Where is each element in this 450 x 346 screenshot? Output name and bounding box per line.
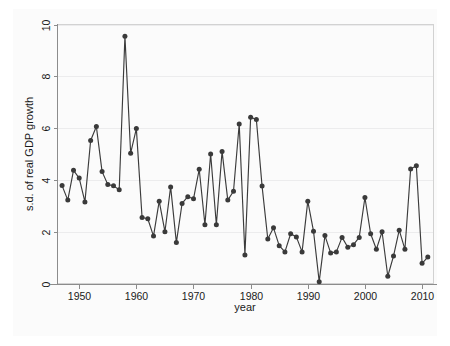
data-point-1964 [157, 199, 162, 204]
data-point-1984 [271, 225, 276, 230]
data-point-1985 [277, 243, 282, 248]
data-point-1963 [151, 234, 156, 239]
data-point-1998 [351, 242, 356, 247]
y-tick-label-6: 6 [40, 125, 52, 131]
data-point-1989 [300, 249, 305, 254]
data-point-1959 [128, 151, 133, 156]
data-point-1968 [180, 201, 185, 206]
x-axis: 1950196019701980199020002010 year [50, 285, 437, 314]
x-tick-label-1980: 1980 [240, 290, 264, 302]
data-point-1969 [185, 194, 190, 199]
data-point-1986 [282, 249, 287, 254]
data-point-1996 [340, 235, 345, 240]
data-point-1951 [82, 199, 87, 204]
data-point-2011 [425, 255, 430, 260]
data-point-1994 [328, 250, 333, 255]
x-tick-labels: 1950196019701980199020002010 [68, 290, 435, 302]
x-tick-label-1960: 1960 [125, 290, 149, 302]
y-tick-label-10: 10 [40, 20, 52, 32]
data-point-1981 [254, 117, 259, 122]
data-point-1966 [168, 184, 173, 189]
data-point-1950 [77, 176, 82, 181]
x-tick-label-2000: 2000 [354, 290, 378, 302]
data-point-1967 [174, 240, 179, 245]
data-point-1953 [94, 124, 99, 129]
data-point-1947 [60, 183, 65, 188]
y-axis-title: s.d. of real GDP growth [23, 97, 35, 211]
data-point-2002 [374, 247, 379, 252]
data-series-group [60, 34, 431, 285]
data-point-1955 [105, 182, 110, 187]
data-point-1997 [345, 245, 350, 250]
data-point-1992 [317, 279, 322, 284]
x-tick-marks [80, 285, 423, 289]
x-tick-label-1950: 1950 [68, 290, 92, 302]
data-point-1978 [237, 121, 242, 126]
data-point-1990 [305, 199, 310, 204]
x-axis-title: year [234, 301, 256, 313]
data-point-1976 [225, 198, 230, 203]
x-tick-label-1970: 1970 [182, 290, 206, 302]
data-point-1961 [140, 215, 145, 220]
data-point-1995 [334, 249, 339, 254]
chart-figure: 0246810 s.d. of real GDP growth 19501960… [0, 0, 450, 346]
data-point-2003 [380, 229, 385, 234]
data-point-1958 [122, 34, 127, 39]
data-point-1973 [208, 152, 213, 157]
data-point-1965 [162, 229, 167, 234]
data-point-1956 [111, 183, 116, 188]
data-point-1987 [288, 231, 293, 236]
data-point-1975 [220, 149, 225, 154]
data-point-1982 [260, 184, 265, 189]
data-point-1948 [65, 198, 70, 203]
data-point-1979 [242, 253, 247, 258]
line-chart-plot: 0246810 s.d. of real GDP growth 19501960… [0, 0, 450, 346]
data-point-1983 [265, 236, 270, 241]
data-point-1952 [88, 138, 93, 143]
data-point-2007 [402, 247, 407, 252]
y-tick-label-4: 4 [40, 177, 52, 183]
data-point-1977 [231, 189, 236, 194]
data-point-2008 [408, 167, 413, 172]
data-point-2006 [397, 228, 402, 233]
x-tick-label-2010: 2010 [411, 290, 435, 302]
data-point-1949 [71, 168, 76, 173]
data-point-1993 [322, 233, 327, 238]
series-line-sd-real-gdp-growth [62, 36, 428, 282]
data-point-1980 [248, 115, 253, 120]
data-point-1999 [357, 235, 362, 240]
data-point-2010 [420, 261, 425, 266]
data-point-1970 [191, 196, 196, 201]
data-point-1954 [100, 169, 105, 174]
data-point-1988 [294, 234, 299, 239]
data-point-1972 [202, 222, 207, 227]
y-axis: 0246810 s.d. of real GDP growth [23, 20, 58, 288]
data-point-2005 [391, 254, 396, 259]
data-point-2000 [362, 195, 367, 200]
data-point-1960 [134, 126, 139, 131]
y-tick-labels: 0246810 [40, 20, 52, 288]
y-tick-marks [54, 26, 58, 285]
data-point-1971 [197, 167, 202, 172]
data-point-2009 [414, 163, 419, 168]
data-point-2004 [385, 274, 390, 279]
y-tick-label-2: 2 [40, 229, 52, 235]
data-point-1957 [117, 187, 122, 192]
data-point-2001 [368, 231, 373, 236]
data-point-1974 [214, 222, 219, 227]
y-tick-label-8: 8 [40, 73, 52, 79]
x-tick-label-1990: 1990 [297, 290, 321, 302]
data-point-1991 [311, 229, 316, 234]
data-point-1962 [145, 216, 150, 221]
